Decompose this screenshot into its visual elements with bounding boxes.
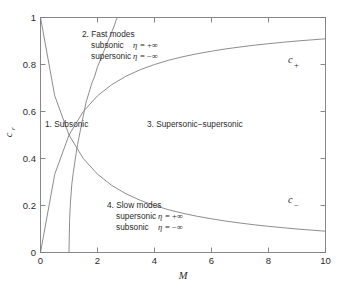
curve-label-c-minus-subscript: − <box>294 200 299 210</box>
y-axis-title: c <box>3 132 14 137</box>
x-tick-label: 0 <box>38 255 43 266</box>
figure-container: 0 2 4 6 8 10 0 0.2 0.4 0.6 0.8 1 M c r <box>0 0 347 284</box>
y-axis-title-group: c r <box>3 127 17 137</box>
annotation-region-4-row1-value: = +∞ <box>165 211 183 221</box>
annotation-region-2-title: 2. Fast modes <box>82 29 135 39</box>
annotation-region-2-row2-label: supersonic <box>91 51 131 61</box>
chart-svg: 0 2 4 6 8 10 0 0.2 0.4 0.6 0.8 1 M c r <box>0 0 347 284</box>
y-tick-labels: 0 0.2 0.4 0.6 0.8 1 <box>23 12 36 258</box>
annotation-region-4-row2-eta: η <box>158 222 162 232</box>
x-tick-marks <box>41 18 326 253</box>
curve-label-c-minus-base: c <box>288 194 293 205</box>
x-tick-label: 2 <box>95 255 100 266</box>
y-tick-label: 1 <box>31 12 36 23</box>
annotation-region-4: 4. Slow modes supersonic η = +∞ subsonic… <box>107 200 183 232</box>
y-tick-label: 0.6 <box>23 106 36 117</box>
curve-label-c-plus-base: c <box>288 54 293 65</box>
y-tick-label: 0.2 <box>23 200 36 211</box>
curves <box>41 18 326 253</box>
annotation-region-2-row2-value: = −∞ <box>140 51 158 61</box>
y-tick-label: 0 <box>31 247 36 258</box>
annotation-region-1: 1. Subsonic <box>45 119 88 129</box>
annotation-region-2: 2. Fast modes subsonic η = +∞ supersonic… <box>82 29 158 61</box>
x-tick-label: 8 <box>266 255 271 266</box>
annotation-region-4-row1-label: supersonic <box>116 211 156 221</box>
annotation-region-4-row2-value: = −∞ <box>165 222 183 232</box>
curve-c-plus <box>41 39 326 253</box>
annotation-region-2-row2-eta: η <box>133 51 137 61</box>
plot-axes <box>41 18 326 253</box>
annotation-region-4-row1-eta: η <box>158 211 162 221</box>
annotation-region-2-row1-label: subsonic <box>91 40 124 50</box>
x-tick-label: 6 <box>209 255 214 266</box>
x-axis-title: M <box>178 270 189 281</box>
annotation-region-4-title: 4. Slow modes <box>107 200 161 210</box>
y-tick-label: 0.8 <box>23 59 36 70</box>
curve-label-c-plus-subscript: + <box>294 60 299 70</box>
y-tick-label: 0.4 <box>23 153 36 164</box>
annotation-region-3: 3. Supersonic−supersonic <box>147 119 243 129</box>
x-tick-label: 10 <box>320 255 331 266</box>
curve-label-c-plus: c + <box>288 54 299 70</box>
y-axis-title-subscript: r <box>9 127 17 130</box>
curve-label-c-minus: c − <box>288 194 299 210</box>
x-tick-label: 4 <box>152 255 157 266</box>
annotation-region-2-row1-value: = +∞ <box>140 40 158 50</box>
x-tick-labels: 0 2 4 6 8 10 <box>38 255 331 266</box>
annotation-region-2-row1-eta: η <box>133 40 137 50</box>
y-tick-marks <box>41 18 326 253</box>
annotation-region-4-row2-label: subsonic <box>116 222 149 232</box>
